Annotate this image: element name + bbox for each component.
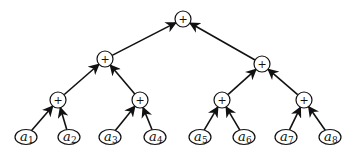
leaf-label: a: [104, 129, 112, 144]
plus-icon: +: [53, 94, 62, 107]
leaf-label: a: [63, 129, 71, 144]
leaf-node-a3: a3: [99, 129, 121, 145]
edge-a1-to-n3a: [32, 106, 53, 130]
edge-a6-to-n3c: [226, 107, 240, 130]
plus-node-n3b: +: [132, 92, 148, 108]
edge-n3a-to-n2l: [64, 64, 99, 94]
leaf-node-a8: a8: [319, 129, 341, 145]
plus-node-n2r: +: [254, 56, 270, 72]
leaf-nodes-group: a1a2a3a4a5a6a7a8: [15, 129, 341, 145]
leaf-subscript: 4: [157, 135, 163, 145]
edge-a2-to-n3a: [60, 108, 67, 130]
edge-a8-to-n3d: [309, 107, 326, 131]
leaf-subscript: 5: [202, 135, 208, 145]
leaf-node-a2: a2: [58, 129, 80, 145]
leaf-label: a: [324, 129, 332, 144]
leaf-label: a: [280, 129, 288, 144]
leaf-subscript: 6: [246, 135, 252, 145]
edges-group: [32, 23, 326, 131]
edge-n3b-to-n2l: [110, 65, 135, 94]
plus-icon: +: [178, 13, 187, 26]
leaf-label: a: [149, 129, 157, 144]
edge-n3c-to-n2r: [228, 69, 256, 94]
leaf-node-a7: a7: [275, 129, 297, 145]
edge-n2r-to-root: [190, 23, 255, 60]
leaf-subscript: 7: [288, 135, 294, 145]
edge-n2l-to-root: [112, 23, 176, 56]
reduction-tree-diagram: +++++++ a1a2a3a4a5a6a7a8: [0, 0, 354, 159]
plus-node-n3a: +: [50, 92, 66, 108]
leaf-node-a6: a6: [233, 129, 255, 145]
plus-node-n3c: +: [214, 92, 230, 108]
edge-n3d-to-n2r: [268, 69, 298, 95]
leaf-subscript: 2: [71, 135, 77, 145]
operator-nodes-group: +++++++: [50, 11, 312, 108]
edge-a7-to-n3d: [289, 107, 300, 130]
leaf-label: a: [238, 129, 246, 144]
edge-a3-to-n3b: [115, 106, 135, 130]
leaf-node-a5: a5: [189, 129, 211, 145]
leaf-subscript: 1: [28, 135, 34, 145]
leaf-node-a1: a1: [15, 129, 37, 145]
edge-a4-to-n3b: [143, 107, 152, 129]
plus-icon: +: [257, 58, 266, 71]
plus-node-root: +: [175, 11, 191, 27]
plus-icon: +: [217, 94, 226, 107]
leaf-subscript: 3: [112, 135, 118, 145]
plus-icon: +: [299, 94, 308, 107]
plus-node-n2l: +: [97, 51, 113, 67]
leaf-label: a: [194, 129, 202, 144]
leaf-node-a4: a4: [144, 129, 166, 145]
plus-icon: +: [135, 94, 144, 107]
edge-a5-to-n3c: [204, 107, 218, 130]
plus-node-n3d: +: [296, 92, 312, 108]
leaf-subscript: 8: [332, 135, 338, 145]
plus-icon: +: [100, 53, 109, 66]
leaf-label: a: [20, 129, 28, 144]
